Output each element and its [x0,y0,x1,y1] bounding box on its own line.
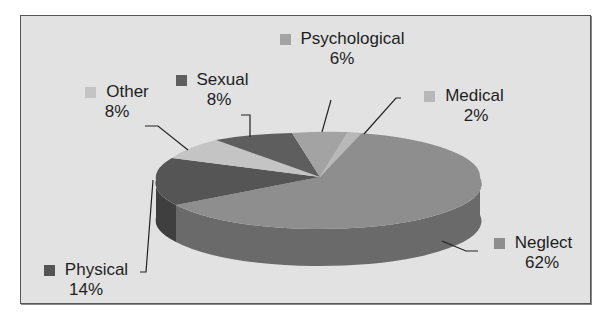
label-psychological-pct: 6% [262,49,422,69]
pie-top-faces [156,132,482,229]
leader-line-physical [140,180,153,272]
label-medical-name: Medical [445,86,504,106]
label-psychological-name: Psychological [301,29,405,49]
leader-line-sexual [241,115,250,137]
legend-swatch-neglect [494,238,505,249]
legend-swatch-sexual [176,75,187,86]
legend-swatch-medical [424,91,435,102]
label-neglect-pct: 62% [484,253,582,273]
legend-swatch-psychological [280,34,291,45]
label-neglect-name: Neglect [515,233,573,253]
label-medical: Medical 2% [408,86,520,126]
label-physical-pct: 14% [34,280,138,300]
label-other: Other 8% [76,82,158,122]
label-neglect: Neglect 62% [484,233,582,273]
label-sexual-name: Sexual [197,70,249,90]
leader-line-medical [364,98,401,134]
label-other-pct: 8% [76,102,158,122]
legend-swatch-physical [44,265,55,276]
label-physical: Physical 14% [34,260,138,300]
label-psychological: Psychological 6% [262,29,422,69]
label-sexual: Sexual 8% [164,70,260,110]
leader-line-psychological [322,100,331,132]
label-sexual-pct: 8% [164,90,260,110]
label-physical-name: Physical [65,260,128,280]
label-medical-pct: 2% [408,106,520,126]
legend-swatch-other [85,87,96,98]
leader-line-other [145,126,188,150]
label-other-name: Other [106,82,149,102]
